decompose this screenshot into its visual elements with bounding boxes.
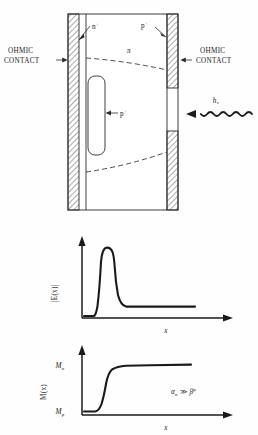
gain-plot-x-arrowhead <box>223 411 233 418</box>
field-plot-curve <box>84 248 195 316</box>
right-ohmic-contact-lower <box>167 131 178 210</box>
gain-plot-ytick-mn: Mn <box>54 362 64 371</box>
right-contact-leader-arrow <box>180 58 185 63</box>
photon-wave <box>201 112 252 116</box>
figure-root: n+ p+ π p+ OHMIC CONTACT OHMIC CONTACT h… <box>0 0 258 435</box>
photon-arrowhead <box>186 110 196 118</box>
device-cross-section: n+ p+ π p+ OHMIC CONTACT OHMIC CONTACT h… <box>4 14 252 210</box>
gain-plot-ytick-mp: Mp <box>54 408 64 417</box>
gain-plot-y-label: M(x) <box>40 384 48 400</box>
label-photon-energy: hν <box>213 97 220 105</box>
gain-plot-y-arrowhead <box>78 345 85 355</box>
right-ohmic-contact-upper <box>167 14 178 88</box>
left-ohmic-contact-label-line2: CONTACT <box>4 57 40 65</box>
field-plot-y-label: |E(x)| <box>51 285 59 302</box>
gain-plot-annotation: αn ≫ βp <box>171 387 196 396</box>
left-ohmic-contact <box>68 14 79 210</box>
figure-svg: n+ p+ π p+ OHMIC CONTACT OHMIC CONTACT h… <box>0 0 258 435</box>
left-ohmic-contact-label-line1: OHMIC <box>8 47 33 55</box>
field-plot-x-label: x <box>163 327 168 335</box>
field-plot-x-arrowhead <box>223 314 233 321</box>
right-ohmic-contact-label-line2: CONTACT <box>196 57 232 65</box>
left-contact-leader-arrow <box>62 58 67 63</box>
right-ohmic-contact-label-line1: OHMIC <box>200 47 225 55</box>
label-pi-region: π <box>127 47 131 55</box>
multiplication-gain-plot: Mn Mp M(x) x αn ≫ βp <box>40 345 233 432</box>
electric-field-plot: |E(x)| x <box>51 236 233 335</box>
field-plot-y-arrowhead <box>78 236 85 246</box>
gain-plot-x-label: x <box>163 424 168 432</box>
